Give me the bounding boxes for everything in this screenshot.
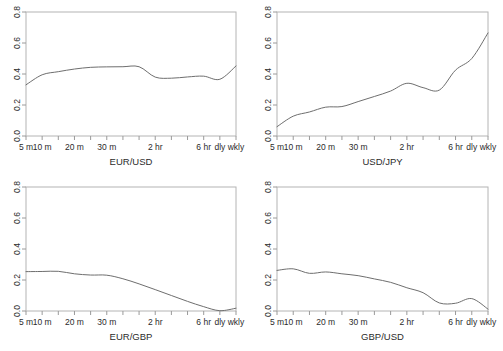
x-tick-label: dly bbox=[466, 142, 478, 152]
x-tick-label: 2 hr bbox=[400, 317, 415, 327]
panel-usd-jpy: 0.00.20.40.60.85 m10 m20 m30 m2 hr6 hrdl… bbox=[251, 0, 503, 175]
axes-eur-gbp: 0.00.20.40.60.85 m10 m20 m30 m2 hr6 hrdl… bbox=[12, 181, 245, 342]
x-tick-label: 10 m bbox=[284, 317, 303, 327]
x-tick-label: 2 hr bbox=[400, 142, 415, 152]
x-tick-label: wkly bbox=[479, 142, 497, 152]
panel-title: USD/JPY bbox=[362, 156, 403, 167]
figure-panel-grid: 0.00.20.40.60.85 m10 m20 m30 m2 hr6 hrdl… bbox=[0, 0, 503, 351]
x-tick-label: 6 hr bbox=[448, 142, 463, 152]
x-tick-label: wkly bbox=[227, 317, 245, 327]
panel-eur-usd: 0.00.20.40.60.85 m10 m20 m30 m2 hr6 hrdl… bbox=[0, 0, 251, 175]
y-tick-label: 0.6 bbox=[12, 212, 22, 224]
x-tick-label: 20 m bbox=[65, 317, 84, 327]
x-tick-label: wkly bbox=[227, 142, 245, 152]
chart-gbp-usd: 0.00.20.40.60.85 m10 m20 m30 m2 hr6 hrdl… bbox=[251, 175, 503, 351]
y-tick-label: 0.4 bbox=[12, 243, 22, 255]
y-tick-label: 0.4 bbox=[263, 243, 273, 255]
x-tick-label: 30 m bbox=[349, 142, 368, 152]
panel-gbp-usd: 0.00.20.40.60.85 m10 m20 m30 m2 hr6 hrdl… bbox=[251, 175, 503, 351]
x-tick-label: 30 m bbox=[97, 142, 116, 152]
x-tick-label: 30 m bbox=[349, 317, 368, 327]
panel-eur-gbp: 0.00.20.40.60.85 m10 m20 m30 m2 hr6 hrdl… bbox=[0, 175, 251, 351]
chart-eur-gbp: 0.00.20.40.60.85 m10 m20 m30 m2 hr6 hrdl… bbox=[0, 175, 251, 351]
y-tick-label: 0.2 bbox=[12, 99, 22, 111]
x-tick-label: dly bbox=[466, 317, 478, 327]
y-tick-label: 0.8 bbox=[12, 181, 22, 193]
panel-title: EUR/GBP bbox=[110, 331, 153, 342]
x-tick-label: 20 m bbox=[316, 317, 335, 327]
y-tick-label: 0.2 bbox=[12, 274, 22, 286]
y-tick-label: 0.0 bbox=[12, 130, 22, 142]
x-tick-label: 20 m bbox=[316, 142, 335, 152]
panel-title: EUR/USD bbox=[110, 156, 153, 167]
x-tick-label: 5 m bbox=[270, 142, 284, 152]
y-tick-label: 0.8 bbox=[12, 6, 22, 18]
x-tick-label: 2 hr bbox=[148, 317, 163, 327]
x-tick-label: 10 m bbox=[33, 142, 52, 152]
series-line bbox=[26, 66, 236, 85]
series-line bbox=[277, 33, 488, 127]
x-tick-label: 6 hr bbox=[196, 142, 211, 152]
x-tick-label: wkly bbox=[479, 317, 497, 327]
series-line bbox=[26, 271, 236, 311]
y-tick-label: 0.4 bbox=[263, 68, 273, 80]
x-tick-label: 10 m bbox=[284, 142, 303, 152]
series-line bbox=[277, 269, 488, 309]
x-tick-label: dly bbox=[214, 142, 226, 152]
chart-usd-jpy: 0.00.20.40.60.85 m10 m20 m30 m2 hr6 hrdl… bbox=[251, 0, 503, 175]
x-tick-label: 5 m bbox=[19, 317, 33, 327]
axes-eur-usd: 0.00.20.40.60.85 m10 m20 m30 m2 hr6 hrdl… bbox=[12, 6, 245, 167]
x-tick-label: 30 m bbox=[97, 317, 116, 327]
y-tick-label: 0.2 bbox=[263, 274, 273, 286]
chart-eur-usd: 0.00.20.40.60.85 m10 m20 m30 m2 hr6 hrdl… bbox=[0, 0, 251, 175]
x-tick-label: 5 m bbox=[270, 317, 284, 327]
y-tick-label: 0.6 bbox=[12, 37, 22, 49]
x-tick-label: dly bbox=[214, 317, 226, 327]
axes-usd-jpy: 0.00.20.40.60.85 m10 m20 m30 m2 hr6 hrdl… bbox=[263, 6, 497, 167]
x-tick-label: 10 m bbox=[33, 317, 52, 327]
axes-gbp-usd: 0.00.20.40.60.85 m10 m20 m30 m2 hr6 hrdl… bbox=[263, 181, 497, 342]
y-tick-label: 0.8 bbox=[263, 181, 273, 193]
x-tick-label: 20 m bbox=[65, 142, 84, 152]
x-tick-label: 5 m bbox=[19, 142, 33, 152]
y-tick-label: 0.0 bbox=[263, 130, 273, 142]
panel-title: GBP/USD bbox=[361, 331, 404, 342]
y-tick-label: 0.2 bbox=[263, 99, 273, 111]
y-tick-label: 0.4 bbox=[12, 68, 22, 80]
y-tick-label: 0.6 bbox=[263, 37, 273, 49]
x-tick-label: 2 hr bbox=[148, 142, 163, 152]
x-tick-label: 6 hr bbox=[448, 317, 463, 327]
x-tick-label: 6 hr bbox=[196, 317, 211, 327]
y-tick-label: 0.6 bbox=[263, 212, 273, 224]
y-tick-label: 0.8 bbox=[263, 6, 273, 18]
y-tick-label: 0.0 bbox=[12, 305, 22, 317]
y-tick-label: 0.0 bbox=[263, 305, 273, 317]
